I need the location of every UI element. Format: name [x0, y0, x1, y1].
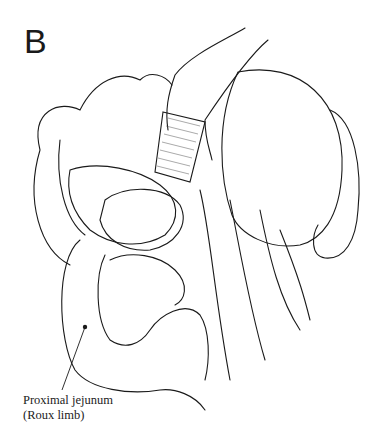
label-line-2: (Roux limb) [23, 408, 113, 423]
central-mass [69, 166, 176, 244]
stomach-outline [222, 70, 342, 246]
roux-limb-inner [110, 255, 184, 305]
anatomy-illustration [0, 0, 383, 443]
colon-right [314, 110, 360, 258]
mesentery [200, 190, 310, 380]
roux-limb [62, 240, 209, 410]
label-proximal-jejunum: Proximal jejunum (Roux limb) [23, 393, 113, 423]
bowel-left [34, 75, 172, 265]
leader-line [62, 327, 85, 390]
label-line-1: Proximal jejunum [23, 393, 113, 408]
esophagus-outline [167, 28, 268, 160]
